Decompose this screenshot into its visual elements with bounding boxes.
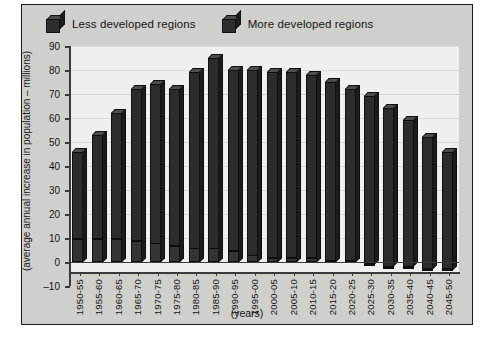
x-axis-tick <box>430 272 431 276</box>
bar-segment-divider <box>92 238 103 240</box>
bar-segment-less-developed <box>150 84 161 262</box>
bar-side-face <box>356 85 360 262</box>
bar-segment-divider <box>364 264 375 266</box>
bar-segment-less-developed <box>131 89 142 262</box>
bar-segment-less-developed <box>422 137 433 269</box>
x-axis-tick <box>119 272 120 276</box>
gridline <box>70 142 459 143</box>
y-axis-tick <box>65 262 70 264</box>
chart-figure: Less developed regions More developed re… <box>21 4 473 325</box>
bar-side-face <box>297 68 301 262</box>
y-axis: –100102030405060708090 <box>62 46 70 286</box>
bar-side-face <box>394 104 398 266</box>
bar-side-face <box>317 71 321 262</box>
y-axis-tick-label: 40 <box>49 161 60 172</box>
bar-segment-more-developed <box>92 238 103 262</box>
bar-segment-less-developed <box>208 58 219 262</box>
x-axis-tick <box>99 272 100 276</box>
y-axis-tick-label: –10 <box>43 281 60 292</box>
bar-segment-more-developed <box>72 238 83 262</box>
bar-side-face <box>142 85 146 262</box>
x-axis-tick <box>196 272 197 276</box>
chart-legend: Less developed regions More developed re… <box>22 5 472 43</box>
plot-area <box>70 46 459 272</box>
bar-segment-less-developed <box>247 70 258 262</box>
bar-side-face <box>258 66 262 262</box>
x-axis-tick <box>177 272 178 276</box>
bar-side-face <box>161 80 165 262</box>
bar-side-face <box>219 54 223 262</box>
bar-segment-less-developed <box>189 72 200 262</box>
y-axis-tick <box>65 46 70 48</box>
x-axis-tick <box>274 272 275 276</box>
bar-side-face <box>336 78 340 262</box>
y-axis-tick-label: 30 <box>49 185 60 196</box>
x-axis-tick <box>313 272 314 276</box>
bar-side-face <box>375 92 379 264</box>
bar-side-face <box>239 66 243 262</box>
y-axis-tick <box>65 190 70 192</box>
bar-segment-less-developed <box>403 120 414 266</box>
bar-segment-less-developed <box>228 70 239 262</box>
y-axis-tick <box>65 214 70 216</box>
bar-segment-divider <box>325 260 336 262</box>
bar-segment-divider <box>267 257 278 259</box>
x-axis-tick <box>391 272 392 276</box>
bar-side-face <box>180 85 184 262</box>
bar-segment-divider <box>131 240 142 242</box>
bar-side-face <box>83 148 87 262</box>
bar-segment-more-developed <box>228 250 239 262</box>
bar-segment-more-developed <box>150 243 161 262</box>
x-axis-tick <box>294 272 295 276</box>
bar-segment-divider <box>422 269 433 271</box>
plot-inner <box>70 46 459 272</box>
x-axis-tick <box>158 272 159 276</box>
bar-segment-less-developed <box>325 82 336 262</box>
bar-side-face <box>453 148 457 270</box>
y-axis-tick-label: 0 <box>54 257 60 268</box>
x-axis-tick <box>352 272 353 276</box>
bar-side-face <box>103 131 107 262</box>
bar-segment-more-developed <box>189 248 200 262</box>
y-axis-tick-label: 10 <box>49 233 60 244</box>
gridline <box>70 46 459 47</box>
x-axis-tick <box>138 272 139 276</box>
legend-label-less-developed: Less developed regions <box>72 18 196 30</box>
bar-segment-more-developed <box>131 240 142 262</box>
zero-baseline <box>70 262 459 263</box>
bar-segment-divider <box>72 238 83 240</box>
y-axis-tick-label: 60 <box>49 113 60 124</box>
bar-segment-divider <box>169 245 180 247</box>
bar-segment-less-developed <box>286 72 297 262</box>
bar-segment-less-developed <box>364 96 375 264</box>
y-axis-tick <box>65 70 70 72</box>
bar-segment-divider <box>306 257 317 259</box>
bar-segment-less-developed <box>442 152 453 270</box>
legend-label-more-developed: More developed regions <box>248 18 374 30</box>
bar-segment-divider <box>286 257 297 259</box>
x-axis-tick <box>255 272 256 276</box>
bar-segment-divider <box>228 250 239 252</box>
legend-item-less-developed: Less developed regions <box>46 15 196 34</box>
x-axis-tick <box>80 272 81 276</box>
bar-side-face <box>122 109 126 262</box>
x-axis-line <box>69 272 460 274</box>
x-axis-tick <box>410 272 411 276</box>
bar-segment-divider <box>111 238 122 240</box>
cube-icon <box>222 15 241 34</box>
cube-icon <box>46 15 65 34</box>
x-axis-tick <box>333 272 334 276</box>
bar-segment-divider <box>208 248 219 250</box>
y-axis-tick <box>65 118 70 120</box>
x-axis-title: (years) <box>22 307 472 319</box>
bar-segment-divider <box>150 243 161 245</box>
y-axis-tick <box>65 166 70 168</box>
bar-segment-more-developed <box>111 238 122 262</box>
bar-segment-divider <box>345 260 356 262</box>
y-axis-tick <box>65 94 70 96</box>
gridline <box>70 166 459 167</box>
gridline <box>70 70 459 71</box>
legend-item-more-developed: More developed regions <box>222 15 374 34</box>
bar-segment-less-developed <box>267 72 278 262</box>
x-axis-tick <box>216 272 217 276</box>
